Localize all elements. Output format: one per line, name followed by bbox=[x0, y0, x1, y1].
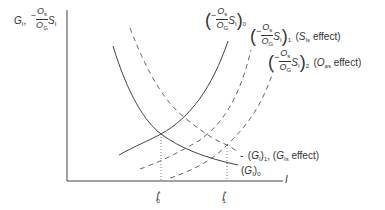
tick-i0-sup: * bbox=[158, 190, 161, 197]
g1-dash: - bbox=[240, 150, 243, 161]
s2-effect-var: O bbox=[317, 57, 325, 68]
tick-i1: I*1 bbox=[222, 188, 226, 204]
y-label-s: S bbox=[48, 15, 55, 26]
s1-s: S bbox=[273, 31, 280, 42]
s1-num-sub: s bbox=[269, 27, 272, 33]
tick-i1-sup: * bbox=[224, 190, 227, 197]
g1-g: G bbox=[251, 150, 259, 161]
s1-label: (−OsOGSI)1 (SIs effect) bbox=[250, 22, 341, 49]
g1-curve bbox=[130, 28, 238, 152]
s1-index: 1 bbox=[288, 37, 291, 43]
s1-fraction: OsOG bbox=[261, 22, 273, 49]
tick-i1-sub: 1 bbox=[223, 198, 226, 204]
g0-index: 0 bbox=[257, 171, 260, 177]
s1-effect-text: effect) bbox=[310, 31, 340, 42]
y-label-fraction: OsOG bbox=[36, 6, 48, 33]
y-axis-label: GI, −OsOGSI bbox=[14, 6, 56, 33]
y-label-s-sub: I bbox=[55, 21, 57, 27]
s2-label: (−OsOGSI)2 (Oas effect) bbox=[268, 48, 361, 75]
s0-num-sub: s bbox=[224, 11, 227, 17]
s0-s: S bbox=[228, 15, 235, 26]
s2-effect-text: effect) bbox=[331, 57, 361, 68]
s2-s: S bbox=[291, 57, 298, 68]
g1-label: - (GI)1, (GIs effect) bbox=[240, 146, 319, 162]
g0-g: G bbox=[244, 165, 252, 176]
y-label-g: G bbox=[14, 15, 22, 26]
s0-index: 0 bbox=[243, 21, 246, 27]
y-label-num-sub: s bbox=[44, 11, 47, 17]
s2-index: 2 bbox=[306, 63, 309, 69]
s0-label: (−OsOGSI)0 bbox=[205, 6, 246, 33]
y-label-sep: , bbox=[23, 15, 26, 26]
x-axis-label: I bbox=[285, 175, 288, 185]
g1-effect-text: effect) bbox=[289, 150, 319, 161]
s2-num-sub: s bbox=[287, 53, 290, 59]
tick-i0: I*0 bbox=[156, 188, 160, 204]
tick-i0-sub: 0 bbox=[157, 198, 160, 204]
g0-label: (GI)0 bbox=[241, 161, 260, 177]
s1-curve bbox=[140, 50, 251, 169]
s0-fraction: OsOG bbox=[216, 6, 228, 33]
y-label-num: O bbox=[37, 6, 44, 16]
s2-fraction: OsOG bbox=[279, 48, 291, 75]
g1-effect-var: G bbox=[276, 150, 284, 161]
